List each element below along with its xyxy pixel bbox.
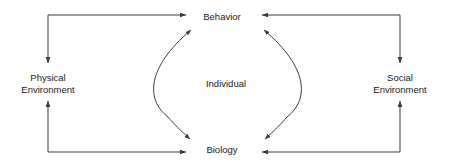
node-behavior-label: Behavior [203,11,241,23]
connector-left-curve-to-biology [168,117,190,139]
connector-right-curve-to-behavior [264,30,301,117]
node-physical-environment: Physical Environment [21,72,74,95]
node-biology: Biology [206,144,237,156]
connector-right-curve-to-biology [265,117,287,139]
node-physical-environment-label-line2: Environment [21,83,74,95]
node-behavior: Behavior [203,11,241,23]
node-social-environment: Social Environment [373,72,426,95]
node-individual-label: Individual [206,78,246,90]
diagram-canvas: Behavior Biology Physical Environment So… [0,0,451,166]
node-individual: Individual [206,78,246,90]
node-physical-environment-label-line1: Physical [21,72,74,84]
node-social-environment-label-line2: Environment [373,83,426,95]
connector-left-curve-to-behavior [154,30,191,117]
node-social-environment-label-line1: Social [373,72,426,84]
node-biology-label: Biology [206,144,237,156]
